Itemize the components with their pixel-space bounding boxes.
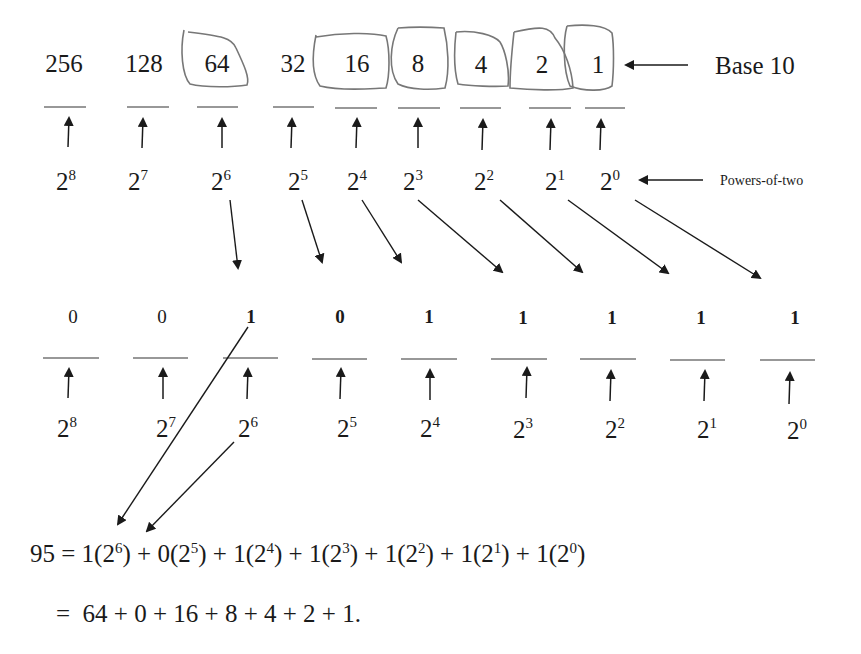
- power-base: 21: [697, 415, 717, 443]
- term: 1(24): [233, 540, 282, 567]
- term: 1(20): [536, 540, 585, 567]
- arrow-down-icon: [635, 200, 760, 278]
- base10-value: 8: [412, 50, 425, 77]
- arrow-down-icon: [500, 200, 582, 272]
- power-base: 26: [211, 167, 232, 195]
- power-base: 27: [128, 167, 149, 195]
- power-base: 22: [474, 167, 494, 195]
- equation-line-1: 95 = 1(26) + 0(25) + 1(24) + 1(23) + 1(2…: [30, 540, 585, 568]
- base10-value: 1: [592, 51, 605, 78]
- arrow-up-icon: [291, 119, 292, 148]
- arrow-up-icon: [356, 119, 357, 148]
- power-base: 20: [787, 416, 807, 444]
- base10-value: 64: [205, 50, 231, 77]
- power-base: 22: [605, 415, 625, 443]
- powers-of-two-label: Powers-of-two: [720, 173, 803, 188]
- bit-value: 1: [696, 307, 706, 328]
- arrow-up-icon: [340, 369, 341, 399]
- power-base: 25: [288, 167, 308, 195]
- term: 1(21): [460, 540, 509, 567]
- mapping-arrows: [230, 200, 760, 278]
- top-blank-lines: [44, 107, 625, 108]
- bit-value: 0: [335, 306, 345, 327]
- power-base: 23: [403, 167, 423, 195]
- bit-value: 1: [246, 306, 256, 327]
- power-base: 28: [56, 167, 76, 195]
- power-base: 23: [513, 415, 533, 443]
- arrow-down-icon: [230, 200, 238, 268]
- arrow-up-icon: [142, 119, 143, 148]
- term: 1(26): [82, 540, 131, 567]
- arrow-up-icon: [610, 371, 611, 401]
- arrow-up-icon: [68, 369, 69, 398]
- arrow-up-icon: [526, 368, 527, 398]
- equation-line-2: = 64 + 0 + 16 + 8 + 4 + 2 + 1.: [56, 600, 361, 628]
- bit-value: 1: [518, 307, 528, 328]
- bottom-up-arrows: [68, 368, 790, 404]
- arrow-up-icon: [704, 371, 705, 401]
- power-base: 28: [57, 414, 77, 442]
- base10-values-row: 256 128 64 32 16 8 4 2 1: [45, 50, 604, 78]
- base10-label: Base 10: [715, 52, 795, 79]
- hand-drawn-circles: [182, 25, 614, 90]
- arrow-down-icon: [418, 200, 502, 272]
- top-up-arrows: [68, 118, 601, 150]
- power-base: 25: [337, 414, 357, 442]
- term: 1(23): [309, 540, 358, 567]
- arrow-down-icon: [362, 200, 401, 262]
- bottom-blank-lines: [43, 358, 815, 360]
- bottom-powers-row: 28 27 26 25 24 23 22 21 20: [57, 414, 807, 444]
- power-base: 20: [600, 167, 620, 195]
- equation-lhs: 95 =: [30, 540, 82, 567]
- bit-value: 0: [68, 306, 78, 327]
- term: 0(25): [157, 540, 206, 567]
- arrow-down-icon: [302, 200, 322, 262]
- bit-value: 1: [790, 307, 800, 328]
- arrow-up-icon: [789, 373, 790, 404]
- top-powers-row: 28 27 26 25 24 23 22 21 20: [56, 167, 620, 195]
- bit-value: 0: [157, 306, 167, 327]
- bit-value: 1: [607, 307, 617, 328]
- power-base: 26: [238, 414, 259, 442]
- arrow-down-left-icon: [147, 442, 234, 531]
- base10-value: 32: [281, 50, 306, 77]
- term: 1(22): [385, 540, 434, 567]
- binary-bits-row: 0 0 1 0 1 1 1 1 1: [68, 306, 800, 328]
- bit-value: 1: [424, 306, 434, 327]
- power-base: 27: [156, 414, 177, 442]
- power-base: 24: [420, 414, 441, 442]
- power-base: 24: [347, 167, 368, 195]
- base10-value: 2: [536, 51, 549, 78]
- arrow-up-icon: [68, 118, 69, 147]
- arrow-up-icon: [600, 120, 601, 150]
- arrow-up-icon: [482, 120, 483, 150]
- base10-value: 256: [45, 50, 83, 77]
- arrow-up-icon: [247, 369, 248, 399]
- arrow-up-icon: [550, 120, 551, 150]
- base10-value: 4: [475, 51, 488, 78]
- base10-value: 16: [345, 50, 370, 77]
- base10-value: 128: [125, 50, 163, 77]
- power-base: 21: [545, 167, 565, 195]
